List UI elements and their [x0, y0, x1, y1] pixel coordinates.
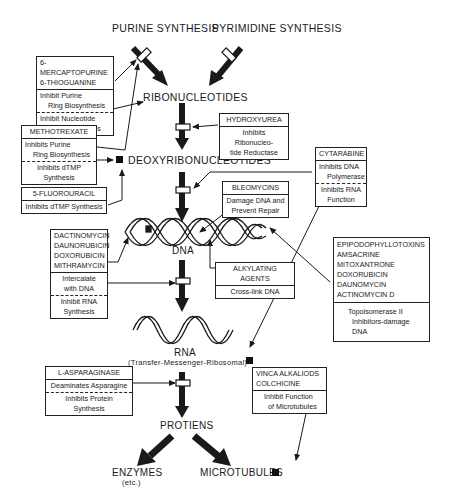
mechanism-line: Ring Biosynthesis — [40, 101, 110, 111]
pyrimidine-line-2: SYNTHESIS — [279, 22, 341, 34]
fu-to-deoxy-arrow — [108, 170, 122, 205]
mechanism-line: with DNA — [54, 284, 104, 294]
drug-box-alkylating-agents: ALKYLATING AGENTS Cross-link DNA — [215, 262, 295, 299]
mechanism: Inhibits Protein Synthesis — [46, 392, 132, 415]
mechanism-line: Intercalate — [54, 274, 104, 284]
mechanism: Inhibits Ribonucleo- tide Reductase — [220, 127, 288, 159]
mechanism: Intercalate with DNA — [51, 273, 107, 295]
drug-name: CYTARABINE — [319, 149, 363, 159]
mechanism: Deaminates Asparagine — [46, 380, 132, 392]
microtubules-label: MICROTUBULES — [200, 467, 283, 479]
drug-box-mercaptopurine: 6-MERCAPTOPURINE 6-THIOGUANINE Inhibit P… — [36, 56, 114, 136]
mechanism: Inhibits dTMP Synthesis — [22, 161, 96, 184]
drug-name: AMSACRINE — [337, 250, 426, 260]
purine-arrow — [133, 48, 168, 86]
mechanism: Topoisomerase II Inhibitors-damage DNA — [334, 303, 429, 341]
mechanism-line: Ring Biosynthesis — [25, 150, 93, 160]
mechanism-line: Inhibit Nucleotide — [40, 114, 110, 124]
dna-label: DNA — [172, 245, 194, 257]
mechanism-line: DNA — [348, 327, 426, 337]
mechanism-line: Inhibit Function — [256, 392, 323, 402]
block-marker-deoxy — [116, 156, 123, 163]
box-header: 5-FLUOROURACIL — [22, 188, 106, 201]
rna-strand — [133, 317, 233, 344]
block-marker-rna — [246, 357, 253, 364]
mechanism-line: tide Reductase — [223, 148, 285, 158]
drug-name: DAUNOMYCIN — [337, 280, 426, 290]
mechanism: Damage DNA and Prevent Repair — [223, 195, 288, 217]
mechanism-line: Deaminates Asparagine — [49, 381, 129, 391]
dact-to-dna-arrow — [108, 238, 128, 262]
drug-name: 6-MERCAPTOPURINE — [40, 58, 110, 78]
mechanism-line: Topoisomerase II — [348, 307, 426, 317]
drug-name: 5-FLUOROURACIL — [25, 189, 103, 199]
mechanism-line: Inhibit Purine — [40, 91, 110, 101]
mechanism-line: Polymerase — [319, 172, 363, 182]
mechanism: Inhibit Purine Ring Biosynthesis — [37, 90, 113, 112]
drug-name: HYDROXYUREA — [223, 115, 285, 125]
ribo-block-bar — [176, 124, 190, 130]
pyrimidine-synthesis-label: PYRIMIDINE SYNTHESIS — [212, 22, 282, 34]
mechanism-line: Prevent Repair — [226, 206, 285, 216]
drug-name: 6-THIOGUANINE — [40, 78, 110, 88]
ribonucleotides-label: RIBONUCLEOTIDES — [143, 91, 248, 103]
rna-types-label: (Transfer-Messenger-Ribosomal) — [128, 357, 247, 369]
drug-name: DOXORUBICIN — [337, 270, 426, 280]
purine-line-2: SYNTHESIS — [157, 22, 219, 34]
mechanism-line: Function — [319, 195, 363, 205]
mechanism-line: Inhibits DNA — [319, 162, 363, 172]
drug-name: MITOXANTRONE — [337, 260, 426, 270]
enzymes-etc-label: (etc.) — [122, 477, 141, 489]
box-header: METHOTREXATE — [22, 126, 96, 139]
drug-name: EPIPODOPHYLLOTOXINS — [337, 240, 426, 250]
box-header: ALKYLATING AGENTS — [216, 263, 294, 286]
drug-box-hydroxyurea: HYDROXYUREA Inhibits Ribonucleo- tide Re… — [219, 113, 289, 160]
drug-box-epipodophyllotoxins: EPIPODOPHYLLOTOXINS AMSACRINE MITOXANTRO… — [333, 237, 430, 342]
drug-name: METHOTREXATE — [25, 127, 93, 137]
block-marker-microtubules — [272, 469, 279, 476]
drug-name: DACTINOMYCIN — [54, 231, 104, 241]
box-header: L-ASPARAGINASE — [46, 367, 132, 380]
mechanism-line: Damage DNA and — [226, 196, 285, 206]
drug-name: DAUNORUBICIN — [54, 241, 104, 251]
drug-name: VINCA ALKALIODS — [256, 369, 323, 379]
drug-box-asparaginase: L-ASPARAGINASE Deaminates Asparagine Inh… — [45, 366, 133, 416]
mechanism-line: Inhibits dTMP Synthesis — [25, 202, 103, 212]
main-pathway-arrows — [133, 48, 241, 466]
dna-helix — [125, 219, 266, 246]
pyrimidine-block-bar — [222, 48, 236, 62]
mechanism: Inhibit Function of Microtubules — [253, 391, 326, 413]
drug-name: ALKYLATING AGENTS — [219, 264, 291, 284]
drug-box-fluorouracil: 5-FLUOROURACIL Inhibits dTMP Synthesis — [21, 187, 107, 214]
mechanism-line: Inhibits Protein — [49, 394, 129, 404]
mechanism-line: Inhibits RNA — [319, 185, 363, 195]
mechanism: Inhibits Purine Ring Biosynthesis — [22, 139, 96, 161]
mechanism: Cross-link DNA — [216, 286, 294, 298]
box-header: BLEOMYCINS — [223, 182, 288, 195]
mechanism-line: Synthesis — [25, 173, 93, 183]
purine-line-1: PURINE — [112, 22, 153, 34]
drug-name: DOXORUBICIN — [54, 251, 104, 261]
hu-to-ribo-arrow — [193, 125, 218, 127]
box-header: DACTINOMYCIN DAUNORUBICIN DOXORUBICIN MI… — [51, 230, 107, 273]
mechanism-line: Inhibits Purine — [25, 140, 93, 150]
drug-name: MITHRAMYCIN — [54, 261, 104, 271]
mechanism: Inhibits RNA Function — [316, 183, 366, 206]
mp-to-ribo-arrow — [113, 102, 143, 109]
mechanism: Inhibit RNA Synthesis — [51, 295, 107, 318]
mechanism-line: Inhibits Ribonucleo- — [223, 128, 285, 148]
intercalator-mark — [146, 226, 151, 232]
box-header: VINCA ALKALIODS COLCHICINE — [253, 368, 326, 391]
drug-name: BLEOMYCINS — [226, 183, 285, 193]
dna-rna-block-bar — [176, 278, 190, 284]
drug-box-bleomycins: BLEOMYCINS Damage DNA and Prevent Repair — [222, 181, 289, 218]
mp-to-purine-arrow — [115, 60, 136, 81]
mechanism-line: Synthesis — [49, 404, 129, 414]
drug-box-cytarabine: CYTARABINE Inhibits DNA Polymerase Inhib… — [315, 147, 367, 207]
mechanism: Inhibits dTMP Synthesis — [22, 201, 106, 213]
rna-protein-block-bar — [176, 380, 190, 386]
mechanism-line: Inhibit RNA — [54, 297, 104, 307]
proteins-label: PROTIENS — [160, 420, 214, 432]
mechanism-line: Inhibits dTMP — [25, 163, 93, 173]
purine-synthesis-label: PURINE SYNTHESIS — [112, 22, 172, 34]
